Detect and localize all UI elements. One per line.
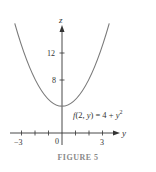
tick-label-neg3: −3 <box>14 138 23 147</box>
parabola-figure: y z −3 0 3 12 8 f(2, y) = 4 + y2 <box>0 0 156 172</box>
z-axis-arrow-icon <box>60 25 65 32</box>
y-axis-label: y <box>121 128 126 138</box>
tick-label-0: 0 <box>55 137 59 146</box>
function-label-exponent: 2 <box>119 109 122 115</box>
z-axis-label: z <box>58 15 63 25</box>
tick-label-8: 8 <box>52 76 56 85</box>
tick-label-3: 3 <box>100 138 104 147</box>
figure-caption: FIGURE 5 <box>0 153 156 162</box>
tick-label-12: 12 <box>47 49 55 58</box>
y-axis-arrow-icon <box>113 131 120 136</box>
function-label: f(2, y) = 4 + y2 <box>73 109 122 120</box>
